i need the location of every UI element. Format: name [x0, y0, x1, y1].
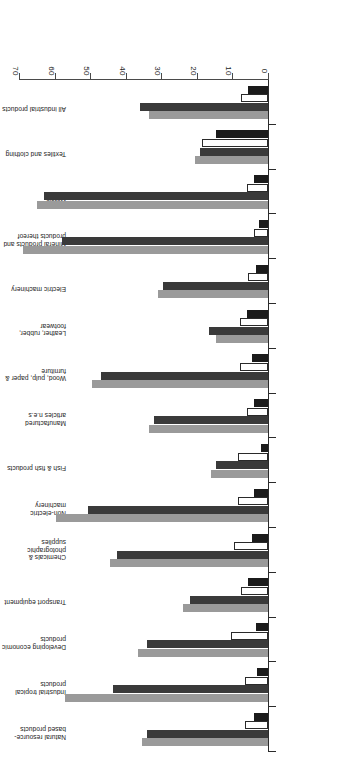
- category-label: Textiles and clothing: [2, 151, 66, 159]
- category-label: Wood, pulp, paper & furniture: [2, 367, 66, 382]
- bar-series3: [190, 596, 268, 604]
- axis-tick-label: 0: [260, 69, 269, 74]
- bar-series4: [65, 694, 268, 702]
- bar-series2: [247, 408, 268, 416]
- bar-series1: [254, 713, 268, 721]
- category-label: Leather, rubber, footwear: [2, 322, 66, 337]
- axis-tick-label: 40: [118, 66, 127, 75]
- category-label: Manufactured articles n.e.s: [2, 412, 66, 427]
- bar-series1: [257, 668, 268, 676]
- bar-group: Developing economic products: [0, 618, 354, 663]
- bar-group: Textiles and clothing: [0, 125, 354, 170]
- bar-series2: [202, 139, 268, 147]
- bar-group: Natural resource-based products: [0, 707, 354, 752]
- axis-tick-label: 70: [11, 66, 20, 75]
- bar-series4: [195, 156, 268, 164]
- bar-group: Transport equipment: [0, 573, 354, 618]
- bar-series3: [147, 640, 268, 648]
- bar-series4: [211, 470, 268, 478]
- bar-series2: [248, 273, 268, 281]
- category-label: Chemicals & photographic supplies: [2, 539, 66, 562]
- bar-series2: [238, 453, 268, 461]
- bar-series4: [158, 291, 268, 299]
- bar-series4: [138, 649, 268, 657]
- bar-series1: [252, 534, 268, 542]
- bar-series4: [110, 559, 268, 567]
- bar-series2: [240, 363, 268, 371]
- bar-series1: [254, 399, 268, 407]
- bar-series3: [209, 327, 268, 335]
- bar-group: All industrial products: [0, 80, 354, 125]
- bar-series1: [256, 623, 268, 631]
- bar-group: Fish & fish products: [0, 438, 354, 483]
- bar-group: Electric machinery: [0, 259, 354, 304]
- bar-series3: [163, 282, 268, 290]
- category-label: Fish & fish products: [2, 464, 66, 472]
- bar-series4: [37, 201, 268, 209]
- category-label: Electric machinery: [2, 285, 66, 293]
- bar-series2: [245, 677, 268, 685]
- bar-series4: [23, 246, 268, 254]
- category-tick: [269, 751, 276, 752]
- chart-figure: 010203040506070 All industrial productsT…: [0, 0, 354, 770]
- bar-series1: [261, 444, 268, 452]
- category-label: Developing economic products: [2, 636, 66, 651]
- bar-group: Industrial tropical products: [0, 662, 354, 707]
- category-label: Transport equipment: [2, 599, 66, 607]
- bar-series2: [247, 184, 268, 192]
- bar-series2: [231, 632, 268, 640]
- bar-group: Chemicals & photographic supplies: [0, 528, 354, 573]
- bar-series4: [149, 111, 268, 119]
- bar-series3: [117, 551, 268, 559]
- bar-group: Wood, pulp, paper & furniture: [0, 349, 354, 394]
- bar-series2: [245, 721, 268, 729]
- bar-series3: [216, 461, 268, 469]
- bar-series3: [140, 103, 268, 111]
- axis-tick-label: 10: [224, 66, 233, 75]
- bar-series3: [62, 237, 268, 245]
- category-label: Natural resource-based products: [2, 725, 66, 740]
- bar-group: Manufactured articles n.e.s: [0, 394, 354, 439]
- axis-tick-label: 20: [189, 66, 198, 75]
- bar-series3: [44, 192, 268, 200]
- bar-group: Non-electric machinery: [0, 483, 354, 528]
- bar-series2: [234, 542, 268, 550]
- bar-series1: [216, 130, 268, 138]
- bar-series4: [56, 515, 268, 523]
- bar-series1: [248, 578, 268, 586]
- axis-tick-label: 50: [82, 66, 91, 75]
- bar-group: Leather, rubber, footwear: [0, 304, 354, 349]
- bar-series4: [142, 739, 268, 747]
- axis-tick: [268, 73, 269, 80]
- category-label: All industrial products: [2, 106, 66, 114]
- bar-series1: [259, 220, 268, 228]
- bar-series1: [254, 489, 268, 497]
- bar-chart: 010203040506070 All industrial productsT…: [0, 0, 354, 770]
- bar-series2: [240, 318, 268, 326]
- bar-series3: [200, 148, 268, 156]
- bar-group: Metals: [0, 170, 354, 215]
- bar-series4: [149, 425, 268, 433]
- bar-series4: [183, 604, 268, 612]
- bar-series3: [154, 416, 268, 424]
- bar-series3: [147, 730, 268, 738]
- axis-tick-label: 60: [47, 66, 56, 75]
- bar-series2: [238, 497, 268, 505]
- bar-series2: [254, 229, 268, 237]
- bar-series3: [88, 506, 268, 514]
- bar-group: Mineral products and products thereof: [0, 214, 354, 259]
- axis-tick-label: 30: [153, 66, 162, 75]
- bar-series2: [241, 94, 268, 102]
- bar-series3: [113, 685, 268, 693]
- bar-series4: [216, 335, 268, 343]
- bar-series1: [248, 86, 268, 94]
- category-label: Industrial tropical products: [2, 681, 66, 696]
- bar-series3: [101, 372, 268, 380]
- bar-series1: [247, 310, 268, 318]
- bar-series1: [252, 354, 268, 362]
- bar-series1: [256, 265, 268, 273]
- bar-series4: [92, 380, 268, 388]
- bar-series1: [254, 175, 268, 183]
- plot-area: 010203040506070 All industrial productsT…: [0, 62, 354, 752]
- bar-series2: [241, 587, 268, 595]
